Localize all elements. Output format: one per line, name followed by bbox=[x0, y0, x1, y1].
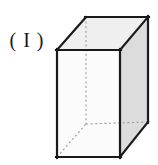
prism-front-face bbox=[57, 50, 120, 157]
figure-container: ( I ) bbox=[0, 0, 158, 165]
rectangular-prism-diagram bbox=[0, 0, 158, 165]
